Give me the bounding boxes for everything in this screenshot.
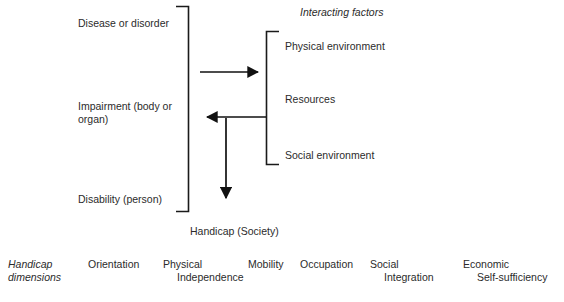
- dimension-physical-independence-line1: Physical: [163, 258, 202, 270]
- impairment-chain-bracket: [176, 7, 189, 212]
- dimension-economic-self-sufficiency: EconomicSelf-sufficiency: [463, 258, 547, 284]
- dimension-occupation-line1: Occupation: [300, 258, 353, 270]
- dimension-economic-self-sufficiency-line1: Economic: [463, 258, 509, 270]
- dimension-physical-independence: PhysicalIndependence: [163, 258, 244, 284]
- dimension-occupation: Occupation: [300, 258, 353, 271]
- dimension-orientation-line1: Orientation: [88, 258, 139, 270]
- label-social-environment: Social environment: [285, 149, 374, 162]
- dimension-mobility: Mobility: [248, 258, 284, 271]
- label-resources: Resources: [285, 93, 335, 106]
- dimension-economic-self-sufficiency-line2: Self-sufficiency: [463, 271, 547, 284]
- label-disease-or-disorder: Disease or disorder: [78, 17, 169, 30]
- label-handicap-society: Handicap (Society): [190, 225, 279, 238]
- label-disability: Disability (person): [78, 193, 162, 206]
- dimension-social-integration-line1: Social: [370, 258, 399, 270]
- dimensions-row-title: Handicapdimensions: [8, 258, 61, 284]
- dimension-social-integration: SocialIntegration: [370, 258, 434, 284]
- dimension-orientation: Orientation: [88, 258, 139, 271]
- diagram-canvas: Disease or disorder Impairment (body or …: [0, 0, 564, 302]
- diagram-artwork: [0, 0, 564, 302]
- interacting-factors-bracket: [267, 32, 280, 165]
- label-physical-environment: Physical environment: [285, 40, 385, 53]
- label-impairment: Impairment (body or organ): [78, 100, 172, 126]
- dimension-physical-independence-line2: Independence: [163, 271, 244, 284]
- heading-interacting-factors: Interacting factors: [300, 6, 383, 19]
- dimensions-row-title-line2: dimensions: [8, 271, 61, 284]
- dimension-mobility-line1: Mobility: [248, 258, 284, 270]
- dimensions-row-title-line1: Handicap: [8, 258, 52, 270]
- dimension-social-integration-line2: Integration: [370, 271, 434, 284]
